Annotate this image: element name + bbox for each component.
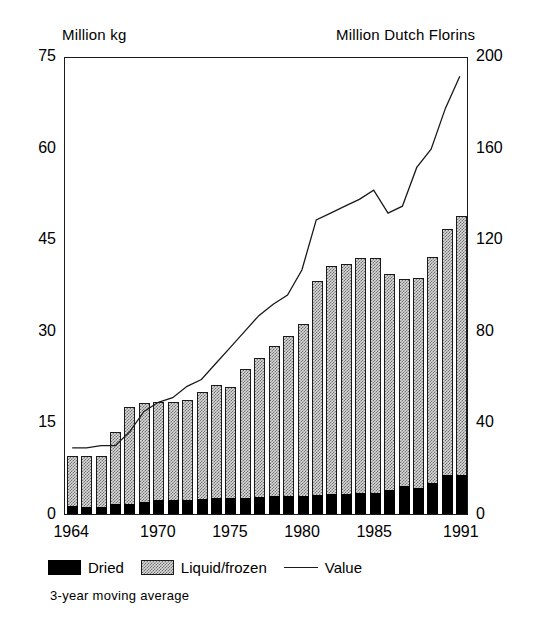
value-line [72,76,460,448]
legend-item-dried: Dried [48,559,124,576]
chart-legend: Dried Liquid/frozen Value [48,559,371,576]
x-tick-1985: 1985 [344,523,404,541]
value-line-layer [65,58,467,514]
legend-label-dried: Dried [88,559,124,576]
y-right-tick-40: 40 [476,413,524,431]
x-tick-1970: 1970 [128,523,188,541]
liquid-frozen-swatch-icon [141,560,174,575]
x-tick-1975: 1975 [200,523,260,541]
left-axis-title: Million kg [62,26,127,43]
y-left-tick-60: 60 [16,139,56,157]
y-left-tick-45: 45 [16,230,56,248]
legend-item-value: Value [284,559,362,576]
x-tick-1980: 1980 [272,523,332,541]
y-left-tick-75: 75 [16,47,56,65]
y-right-tick-0: 0 [476,505,524,523]
right-axis-title: Million Dutch Florins [336,26,475,43]
legend-label-liquid-frozen: Liquid/frozen [181,559,267,576]
y-left-tick-30: 30 [16,322,56,340]
y-right-tick-200: 200 [476,47,524,65]
legend-item-liquid-frozen: Liquid/frozen [141,559,267,576]
chart-figure: Million kg Million Dutch Florins Dried L… [0,0,552,636]
x-tick-1964: 1964 [41,523,101,541]
plot-area [64,57,468,515]
x-tick-1991: 1991 [431,523,491,541]
y-right-tick-160: 160 [476,139,524,157]
y-right-tick-120: 120 [476,230,524,248]
legend-label-value: Value [325,559,362,576]
chart-footnote: 3-year moving average [50,588,189,603]
y-left-tick-0: 0 [16,505,56,523]
value-line-swatch-icon [284,560,318,575]
y-right-tick-80: 80 [476,322,524,340]
y-left-tick-15: 15 [16,413,56,431]
dried-swatch-icon [48,560,81,575]
